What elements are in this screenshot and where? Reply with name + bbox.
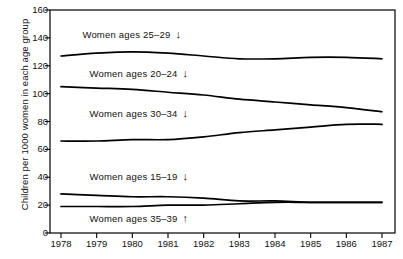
- trend-down-arrow-icon: ↓: [178, 170, 189, 182]
- series-label-text: Women ages 35–39: [90, 213, 178, 224]
- series-label-1: Women ages 20–24↓: [90, 67, 189, 79]
- line-chart: Children per 1000 women in each age grou…: [0, 0, 403, 259]
- series-label-3: Women ages 15–19↓: [90, 170, 189, 182]
- series-label-text: Women ages 20–24: [90, 68, 178, 79]
- series-label-text: Women ages 25–29: [82, 29, 170, 40]
- trend-down-arrow-icon: ↓: [178, 107, 189, 119]
- series-label-4: Women ages 35–39↑: [90, 212, 189, 224]
- series-line-0: [61, 52, 382, 59]
- plot-area: [0, 0, 403, 259]
- trend-up-arrow-icon: ↑: [178, 212, 189, 224]
- series-label-text: Women ages 15–19: [90, 171, 178, 182]
- trend-down-arrow-icon: ↓: [170, 28, 181, 40]
- series-label-0: Women ages 25–29↓: [82, 28, 181, 40]
- series-line-3: [61, 194, 382, 202]
- series-label-text: Women ages 30–34: [90, 108, 178, 119]
- series-label-2: Women ages 30–34↓: [90, 107, 189, 119]
- series-line-2: [61, 124, 382, 141]
- trend-down-arrow-icon: ↓: [178, 67, 189, 79]
- series-line-4: [61, 202, 382, 206]
